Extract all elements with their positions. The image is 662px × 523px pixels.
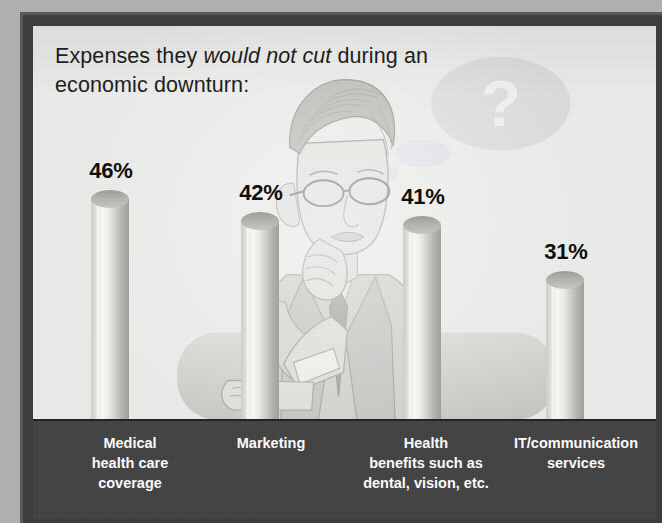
category-label-health-benefits: Health benefits such as dental, vision, … <box>343 433 509 493</box>
question-mark-glyph: ? <box>481 67 521 140</box>
chart-title: Expenses they would not cut during an ec… <box>55 42 475 100</box>
bar-health-benefits <box>403 216 441 421</box>
bar-top-ellipse <box>241 212 279 230</box>
category-label-medical: Medical health care coverage <box>55 433 205 493</box>
bar-highlight <box>96 201 100 421</box>
category-line: services <box>493 453 656 473</box>
bar-it-communication <box>546 271 584 421</box>
category-line: Health <box>343 433 509 453</box>
chart-plate: ? 46% 42% 41% 31% Expenses they woul <box>33 26 656 519</box>
title-prefix: Expenses they <box>55 44 203 68</box>
bar-value-it-communication: 31% <box>544 239 588 265</box>
bar-highlight <box>408 227 412 421</box>
category-line: Marketing <box>203 433 339 453</box>
category-line: benefits such as <box>343 453 509 473</box>
category-line: Medical <box>55 433 205 453</box>
bar-value-medical: 46% <box>89 158 133 184</box>
bar-marketing <box>241 212 279 421</box>
category-line: IT/communication <box>493 433 656 453</box>
category-label-marketing: Marketing <box>203 433 339 453</box>
bar-highlight <box>551 282 555 421</box>
bar-value-marketing: 42% <box>239 180 283 206</box>
poster-frame: ? 46% 42% 41% 31% Expenses they woul <box>20 12 662 523</box>
category-line: health care <box>55 453 205 473</box>
category-label-it-communication: IT/communication services <box>493 433 656 473</box>
thought-bubble-medium <box>396 139 450 167</box>
category-line: coverage <box>55 473 205 493</box>
bar-medical <box>91 190 129 421</box>
category-line: dental, vision, etc. <box>343 473 509 493</box>
bar-top-ellipse <box>91 190 129 208</box>
bar-top-ellipse <box>403 216 441 234</box>
bar-value-health-benefits: 41% <box>401 184 445 210</box>
title-emphasis: would not cut <box>203 44 331 68</box>
category-label-band: Medical health care coverage Marketing H… <box>33 419 656 519</box>
bar-top-ellipse <box>546 271 584 289</box>
bar-highlight <box>246 223 250 421</box>
